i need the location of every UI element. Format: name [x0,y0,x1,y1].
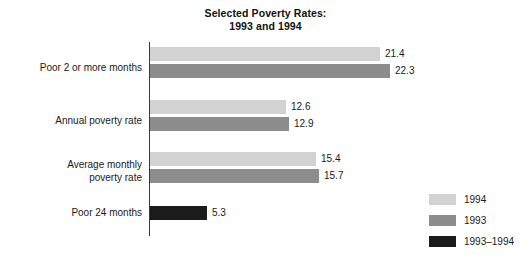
legend-label-1993-1994: 1993–1994 [464,236,514,247]
bar-average-monthly-poverty-rate-1993[interactable] [150,169,319,183]
legend-swatch-icon-1993 [429,215,456,226]
bar-value-poor-2-or-more-months-1994: 21.4 [385,47,404,61]
bar-annual-poverty-rate-1994[interactable] [150,100,286,114]
bar-poor-2-or-more-months-1994[interactable] [150,47,380,61]
legend-item-1994[interactable]: 1994 [429,193,514,206]
bar-poor-24-months-1993-1994[interactable] [150,206,207,220]
legend-label-1994: 1994 [464,194,486,205]
bar-value-average-monthly-poverty-rate-1994: 15.4 [321,152,340,166]
bar-value-annual-poverty-rate-1993: 12.9 [294,117,313,131]
bar-value-poor-2-or-more-months-1993: 22.3 [395,64,414,78]
bar-value-poor-24-months-1993-1994: 5.3 [212,206,226,220]
bar-value-average-monthly-poverty-rate-1993: 15.7 [324,169,343,183]
bar-poor-2-or-more-months-1993[interactable] [150,64,390,78]
legend-swatch-icon-1994 [429,194,456,205]
legend-item-1993-1994[interactable]: 1993–1994 [429,235,514,248]
legend-swatch-icon-1993-1994 [429,236,456,247]
category-label-poor-24-months: Poor 24 months [2,206,142,219]
category-label-poor-2-or-more-months: Poor 2 or more months [2,61,142,74]
bar-annual-poverty-rate-1993[interactable] [150,117,289,131]
bar-average-monthly-poverty-rate-1994[interactable] [150,152,316,166]
legend-label-1993: 1993 [464,215,486,226]
bar-value-annual-poverty-rate-1994: 12.6 [291,100,310,114]
category-label-average-monthly-poverty-rate: Average monthly poverty rate [2,158,142,184]
legend: 1994 1993 1993–1994 [429,193,514,248]
legend-item-1993[interactable]: 1993 [429,214,514,227]
category-label-annual-poverty-rate: Annual poverty rate [2,114,142,127]
